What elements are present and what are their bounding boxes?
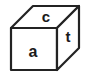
front-face-label: a [29,43,38,60]
cube-diagram: c a t [0,0,87,74]
top-face-label: c [42,8,50,25]
right-face-label: t [66,28,71,45]
cube-drawing: c a t [0,0,87,74]
